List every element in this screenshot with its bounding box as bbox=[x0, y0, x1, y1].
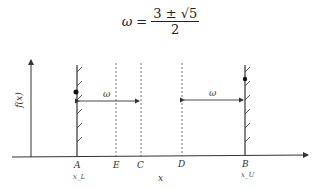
omega-label-left: ω bbox=[103, 89, 110, 99]
omega-label-right: ω bbox=[209, 88, 216, 98]
x-axis bbox=[12, 155, 308, 157]
y-axis-label: f(x) bbox=[14, 92, 24, 107]
label-xu: x_U bbox=[241, 171, 254, 179]
label-c: C bbox=[137, 160, 144, 170]
point-a-marker bbox=[74, 90, 79, 95]
diagram-canvas: ω = 3 ± √5 2 bbox=[0, 0, 321, 189]
label-xl: x_L bbox=[73, 173, 85, 181]
label-a: A bbox=[74, 160, 81, 170]
interval-diagram bbox=[0, 0, 321, 189]
label-d: D bbox=[178, 159, 185, 169]
label-b: B bbox=[242, 159, 249, 169]
point-b-marker bbox=[243, 77, 247, 81]
label-e: E bbox=[113, 160, 120, 170]
label-x: x bbox=[158, 173, 163, 183]
